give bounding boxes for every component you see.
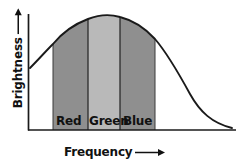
- band-label-blue: Blue: [123, 115, 152, 127]
- y-axis-title: Brightness: [11, 22, 26, 108]
- spectrum-brightness-chart: Red Green Blue Brightness Frequency: [0, 0, 247, 166]
- x-axis-title: Frequency: [64, 145, 165, 160]
- y-axis-title-text: Brightness: [11, 37, 25, 108]
- band-green-fill: [88, 15, 120, 130]
- chart-plot-area: [0, 0, 247, 166]
- colour-band-group: [53, 15, 155, 130]
- band-label-red: Red: [56, 115, 81, 127]
- arrow-right-icon: [135, 146, 165, 160]
- arrow-right-icon: [11, 8, 25, 34]
- x-axis-title-text: Frequency: [64, 145, 132, 159]
